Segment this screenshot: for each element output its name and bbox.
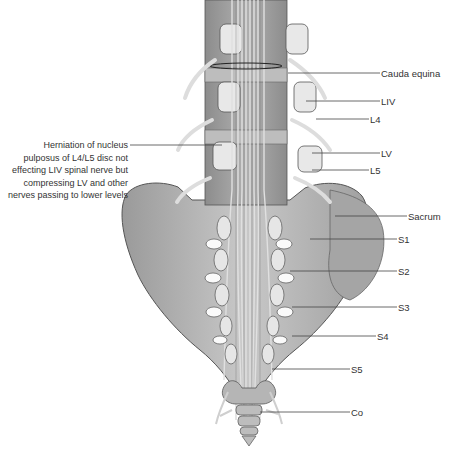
label-sacrum: Sacrum xyxy=(408,211,441,222)
label-l4: L4 xyxy=(370,114,381,125)
annotation-line-2: pulposus of L4/L5 disc not xyxy=(0,152,128,165)
coccyx-seg-1 xyxy=(236,405,262,415)
label-s4: S4 xyxy=(377,331,389,342)
herniation-annotation: Herniation of nucleus pulposus of L4/L5 … xyxy=(0,139,128,202)
coccyx-seg-3 xyxy=(240,427,258,435)
label-l5: L5 xyxy=(370,165,381,176)
diagram-stage: Cauda equina LIV L4 LV L5 Sacrum S1 S2 S… xyxy=(0,0,475,469)
annotation-line-1: Herniation of nucleus xyxy=(0,139,128,152)
label-s1: S1 xyxy=(398,234,410,245)
annotation-line-5: nerves passing to lower levels xyxy=(0,189,128,202)
sacrum-wing-right xyxy=(329,190,384,300)
label-liv: LIV xyxy=(381,96,395,107)
label-s2: S2 xyxy=(398,266,410,277)
label-cauda-equina: Cauda equina xyxy=(381,68,440,79)
annotation-line-4: compressing LV and other xyxy=(0,177,128,190)
coccyx-tip xyxy=(242,436,256,446)
annotation-line-3: effecting LIV spinal nerve but xyxy=(0,164,128,177)
label-s3: S3 xyxy=(398,302,410,313)
label-s5: S5 xyxy=(351,364,363,375)
coccyx-seg-2 xyxy=(238,416,260,426)
label-co: Co xyxy=(351,407,363,418)
label-lv: LV xyxy=(381,148,392,159)
